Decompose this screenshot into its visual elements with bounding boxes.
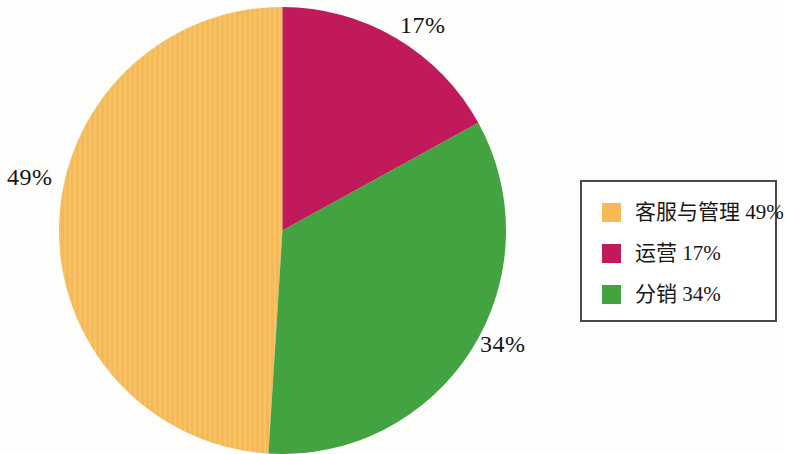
legend-item-list: 客服与管理 49% 运营 17% 分销 34% xyxy=(602,196,771,310)
legend-label-distribution: 分销 34% xyxy=(635,284,721,305)
legend-item-operations[interactable]: 运营 17% xyxy=(602,237,771,269)
pie-slice-customer-service-texture xyxy=(59,7,283,454)
pie-data-label-distribution: 34% xyxy=(480,331,526,358)
legend-swatch-customer-service xyxy=(602,203,621,222)
legend-item-distribution[interactable]: 分销 34% xyxy=(602,278,771,310)
chart-legend: 客服与管理 49% 运营 17% 分销 34% xyxy=(580,180,777,322)
pie-svg xyxy=(59,7,506,454)
pie-graphic xyxy=(59,7,506,454)
pie-data-label-operations: 17% xyxy=(400,12,446,39)
legend-swatch-distribution xyxy=(602,285,621,304)
legend-swatch-operations xyxy=(602,244,621,263)
legend-label-operations: 运营 17% xyxy=(635,243,721,264)
legend-item-customer-service[interactable]: 客服与管理 49% xyxy=(602,196,771,228)
legend-label-customer-service: 客服与管理 49% xyxy=(635,202,784,223)
pie-data-label-customer-service: 49% xyxy=(7,164,53,191)
